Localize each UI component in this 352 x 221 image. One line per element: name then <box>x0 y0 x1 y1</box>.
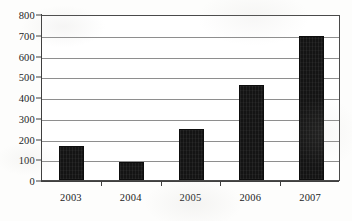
x-axis-tick-label-2003: 2003 <box>60 192 82 203</box>
plot-area <box>41 15 340 181</box>
y-axis-tick-label: 600 <box>19 51 35 62</box>
bar-2007 <box>299 36 324 180</box>
x-axis-tick-label-2007: 2007 <box>299 192 321 203</box>
x-axis-tick-mark <box>280 181 281 186</box>
gridline-0 <box>42 181 339 182</box>
gridline-500 <box>42 78 339 79</box>
x-axis-tick-label-2006: 2006 <box>239 192 261 203</box>
bar-2006 <box>239 85 264 180</box>
y-axis-tick-label: 200 <box>19 134 35 145</box>
bar-2003 <box>59 146 84 180</box>
y-axis-tick-label: 0 <box>30 176 35 187</box>
y-axis-tick-label: 400 <box>19 93 35 104</box>
y-axis-line <box>41 14 42 182</box>
y-axis-tick-label: 700 <box>19 30 35 41</box>
y-axis-tick-label: 100 <box>19 155 35 166</box>
y-axis-tick-label: 300 <box>19 113 35 124</box>
x-axis-tick-mark <box>101 181 102 186</box>
gridline-400 <box>42 99 339 100</box>
bar-chart: 0100200300400500600700800 20032004200520… <box>0 0 352 221</box>
gridline-700 <box>42 37 339 38</box>
y-axis-tick-label: 500 <box>19 72 35 83</box>
x-axis-tick-mark <box>220 181 221 186</box>
bar-2005 <box>179 129 204 180</box>
gridline-300 <box>42 120 339 121</box>
x-axis-tick-label-2005: 2005 <box>180 192 202 203</box>
x-axis-tick-label-2004: 2004 <box>120 192 142 203</box>
x-axis-tick-mark <box>161 181 162 186</box>
y-axis-tick-label: 800 <box>19 10 35 21</box>
gridline-600 <box>42 58 339 59</box>
bar-2004 <box>119 162 144 180</box>
